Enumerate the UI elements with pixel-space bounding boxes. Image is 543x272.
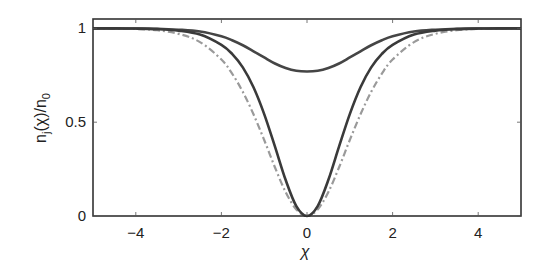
y-label-mid: (χ)/n <box>32 99 49 131</box>
x-axis-label: χ <box>299 243 310 260</box>
y-tick-labels: 00.51 <box>65 19 86 224</box>
y-label-sub2: 0 <box>40 93 52 99</box>
chart: −4−2024 00.51 χ nj(χ)/n0 <box>0 0 543 272</box>
x-tick-label: −4 <box>127 224 144 241</box>
x-tick-label: −2 <box>213 224 230 241</box>
series-line-shallow-dip-solid <box>93 28 521 71</box>
x-tick-label: 4 <box>474 224 482 241</box>
series-line-dark-soliton-dash-dot <box>93 28 521 216</box>
axes-frame <box>93 19 521 216</box>
y-label-base: n <box>32 134 49 143</box>
plot-area <box>93 19 521 216</box>
x-tick-label: 0 <box>303 224 311 241</box>
y-axis-label: nj(χ)/n0 <box>32 93 52 143</box>
series-group <box>93 28 521 216</box>
ticks-group <box>93 19 521 216</box>
y-tick-label: 1 <box>78 19 86 36</box>
svg-text:nj(χ)/n0: nj(χ)/n0 <box>32 93 52 143</box>
series-line-dark-soliton-solid <box>93 28 521 216</box>
x-tick-label: 2 <box>388 224 396 241</box>
y-tick-label: 0 <box>78 207 86 224</box>
y-tick-label: 0.5 <box>65 113 86 130</box>
x-tick-labels: −4−2024 <box>127 224 482 241</box>
